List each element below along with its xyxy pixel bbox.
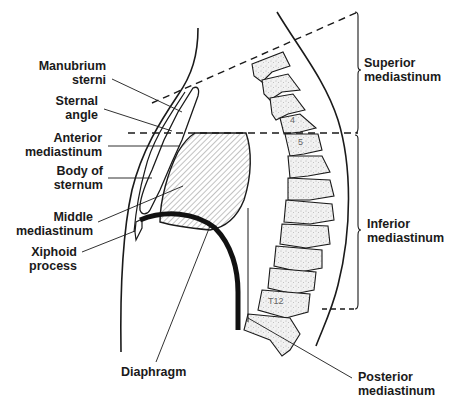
- label-inferior-mediastinum: Inferior mediastinum: [367, 217, 444, 245]
- label-superior-mediastinum: Superior mediastinum: [364, 56, 441, 84]
- label-middle-mediastinum: Middle mediastinum: [8, 210, 93, 238]
- leader-manubrium: [112, 79, 182, 112]
- label-manubrium-sterni: Manubrium sterni: [30, 59, 106, 87]
- label-xiphoid-process: Xiphoid process: [20, 245, 77, 273]
- vertebra-t5-label: 5: [298, 137, 303, 147]
- vertebral-column: [244, 52, 334, 356]
- inferior-brace: [355, 135, 361, 309]
- superior-brace: [355, 12, 361, 133]
- label-anterior-mediastinum: Anterior mediastinum: [10, 131, 102, 159]
- superior-boundary-dashed: [152, 12, 358, 103]
- diaphragm: [140, 214, 238, 330]
- leader-diaphragm: [156, 226, 210, 362]
- label-sternal-angle: Sternal angle: [30, 94, 98, 122]
- label-diaphragm: Diaphragm: [121, 365, 186, 379]
- label-body-of-sternum: Body of sternum: [30, 164, 103, 192]
- vertebra-t12-label: T12: [268, 296, 284, 306]
- leader-posterior: [248, 318, 352, 378]
- label-posterior-mediastinum: Posterior mediastinum: [358, 370, 435, 398]
- vertebra-t4-label: 4: [290, 115, 295, 125]
